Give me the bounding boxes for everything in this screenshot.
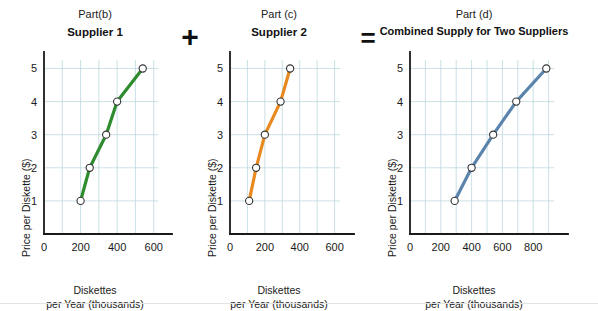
chart-3-x-axis-label-line1: Diskettes (368, 283, 580, 297)
chart-2-x-axis-label: Diskettes per Year (thousands) (190, 283, 368, 311)
chart-2-part-label: Part (c) (190, 8, 368, 22)
chart-1-titles: Part(b) Supplier 1 (0, 0, 190, 39)
chart-1-plot-wrap: Price per Diskette ($) 123450200400600 D… (0, 42, 190, 311)
chart-2-titles: Part (c) Supplier 2 (190, 0, 368, 39)
svg-text:600: 600 (325, 241, 343, 253)
chart-panel-supplier-2: Part (c) Supplier 2 Price per Diskette (… (190, 0, 368, 311)
svg-text:0: 0 (227, 241, 233, 253)
chart-1-x-axis-label-line2: per Year (thousands) (0, 297, 190, 311)
chart-1-x-axis-label-line1: Diskettes (0, 283, 190, 297)
chart-3-plot-wrap: Price per Diskette ($) 12345020040060080… (368, 42, 580, 311)
chart-1-x-axis-label: Diskettes per Year (thousands) (0, 283, 190, 311)
svg-text:4: 4 (31, 96, 37, 108)
chart-3-title: Combined Supply for Two Suppliers (368, 25, 580, 39)
svg-text:200: 200 (256, 241, 274, 253)
chart-3-titles: Part (d) Combined Supply for Two Supplie… (368, 0, 580, 39)
chart-3-svg: 123450200400600800 (368, 42, 580, 282)
svg-text:0: 0 (407, 241, 413, 253)
chart-2-title: Supplier 2 (190, 25, 368, 39)
svg-text:5: 5 (217, 63, 223, 75)
chart-3-y-axis-label: Price per Diskette ($) (386, 158, 398, 257)
chart-1-part-label: Part(b) (0, 8, 190, 22)
svg-text:400: 400 (462, 241, 480, 253)
svg-text:200: 200 (432, 241, 450, 253)
svg-text:600: 600 (493, 241, 511, 253)
svg-text:3: 3 (397, 128, 403, 140)
chart-panel-combined: Part (d) Combined Supply for Two Supplie… (368, 0, 580, 311)
svg-text:4: 4 (217, 96, 223, 108)
svg-text:400: 400 (108, 241, 126, 253)
chart-3-x-axis-label: Diskettes per Year (thousands) (368, 283, 580, 311)
chart-1-title: Supplier 1 (0, 25, 190, 39)
chart-2-x-axis-label-line1: Diskettes (190, 283, 368, 297)
svg-text:5: 5 (397, 62, 403, 74)
svg-text:600: 600 (145, 241, 163, 253)
chart-3-part-label: Part (d) (368, 8, 580, 22)
svg-text:200: 200 (71, 241, 89, 253)
svg-text:3: 3 (217, 129, 223, 141)
chart-2-y-axis-label: Price per Diskette ($) (206, 159, 218, 258)
svg-text:5: 5 (31, 63, 37, 75)
chart-1-y-axis-label: Price per Diskette ($) (20, 159, 32, 258)
bottom-divider (0, 303, 598, 304)
svg-text:4: 4 (397, 95, 403, 107)
svg-text:800: 800 (524, 241, 542, 253)
svg-text:400: 400 (291, 241, 309, 253)
chart-2-plot-wrap: Price per Diskette ($) 123450200400600 D… (190, 42, 368, 311)
svg-text:0: 0 (41, 241, 47, 253)
svg-text:3: 3 (31, 129, 37, 141)
chart-panel-supplier-1: Part(b) Supplier 1 Price per Diskette ($… (0, 0, 190, 311)
chart-2-x-axis-label-line2: per Year (thousands) (190, 297, 368, 311)
